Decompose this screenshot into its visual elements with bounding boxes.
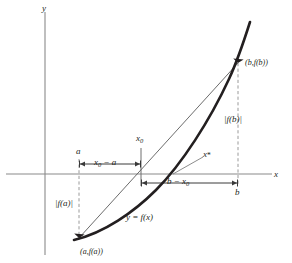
- value-label-fa: |f(a)|: [55, 199, 73, 208]
- dimension-label-left: x0 − a: [94, 158, 116, 168]
- curve-label: y = f(x): [126, 213, 153, 222]
- figure-graphics: [0, 0, 292, 263]
- point-label-b: (b,f(b)): [245, 59, 268, 67]
- point-label-a: (a,f(a)): [80, 248, 103, 256]
- tick-label-xstar: x*: [203, 150, 211, 160]
- tick-label-b: b: [235, 188, 240, 197]
- dimension-label-right: b − x0: [167, 177, 189, 187]
- x-axis-label: x: [274, 170, 278, 179]
- function-curve: [74, 22, 250, 240]
- dimension-arrow-right: [142, 180, 238, 187]
- dimension-label-left-tail: − a: [101, 157, 116, 167]
- tick-label-xstar-sub: *: [207, 151, 211, 160]
- tick-label-a: a: [76, 147, 81, 156]
- figure-canvas: y x a b x0 x* x0 − a b − x0 (b,f(b)) (a,…: [0, 0, 292, 263]
- value-label-fb: |f(b)|: [224, 115, 242, 124]
- tick-label-x0-sub: 0: [140, 137, 143, 144]
- secant-line: [79, 63, 238, 238]
- y-axis-label: y: [42, 4, 46, 13]
- dimension-label-right-sub: 0: [186, 180, 189, 187]
- tick-label-x0: x0: [136, 134, 143, 144]
- dimension-label-right-main: b − x: [167, 176, 186, 186]
